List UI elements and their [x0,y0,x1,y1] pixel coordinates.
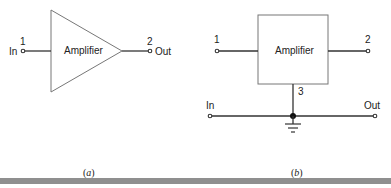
bottom-rule-bar [0,178,391,184]
ground-icon [285,116,301,132]
terminal-1-label-a: 1 [20,36,26,47]
terminal-2-label-b: 2 [365,34,371,45]
amplifier-diagram: Amplifier 1 In 2 Out (a) Amplifier 1 2 3… [0,0,391,188]
diagram-b: Amplifier 1 2 3 In Out (b) [206,15,380,179]
amplifier-label-b: Amplifier [275,45,315,56]
in-label-b: In [206,100,214,111]
amplifier-label-a: Amplifier [64,45,104,56]
terminal-1-label-b: 1 [214,34,220,45]
diagram-a: Amplifier 1 In 2 Out (a) [9,10,171,179]
in-terminal-b [208,114,212,118]
input-terminal-a [21,49,25,53]
out-label-b: Out [364,100,380,111]
terminal-1-b [215,49,219,53]
terminal-3-label-b: 3 [298,86,304,97]
output-terminal-a [148,49,152,53]
out-label-a: Out [155,46,171,57]
in-label-a: In [9,46,17,57]
out-terminal-b [373,114,377,118]
terminal-2-b [366,49,370,53]
terminal-2-label-a: 2 [147,36,153,47]
